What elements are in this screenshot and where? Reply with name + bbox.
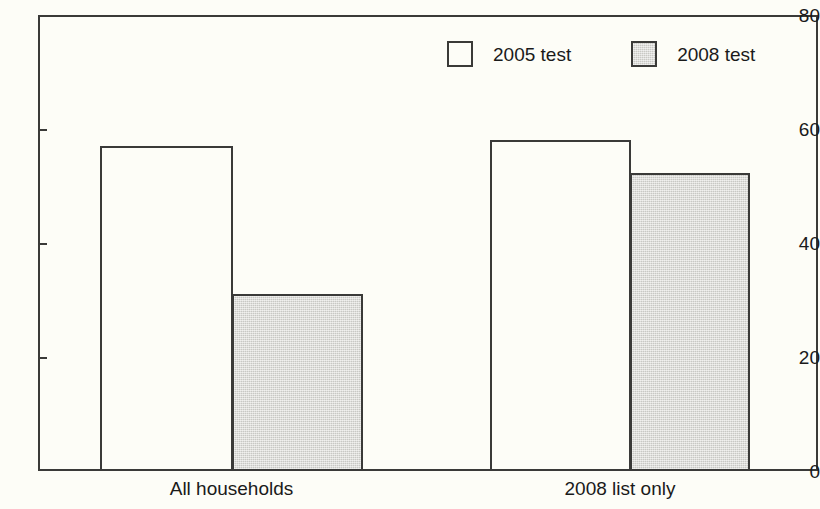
- legend-entry-2008-test: 2008 test: [631, 41, 755, 67]
- legend-entry-2005-test: 2005 test: [447, 41, 571, 67]
- y-axis-label-20: 20: [788, 348, 820, 367]
- y-axis-label-0: 0: [788, 462, 820, 481]
- bar-2008-list-only-2005-test: [490, 140, 631, 471]
- x-axis-category-label-all-households: All households: [100, 478, 363, 499]
- legend-label-2005-test: 2005 test: [493, 45, 571, 64]
- y-axis-label-40: 40: [788, 234, 820, 253]
- y-axis-tick-20: [38, 357, 47, 359]
- x-axis-category-label-2008-list-only: 2008 list only: [490, 478, 750, 499]
- y-axis-tick-60: [38, 129, 47, 131]
- bar-all-households-2005-test: [100, 146, 233, 471]
- legend-swatch-2008-test-icon: [631, 41, 657, 67]
- bar-chart: 80 60 40 20 0 All households 2008 list o…: [0, 0, 820, 509]
- legend: 2005 test 2008 test: [447, 41, 755, 67]
- y-axis-label-80: 80: [788, 6, 820, 25]
- legend-label-2008-test: 2008 test: [677, 45, 755, 64]
- legend-swatch-2005-test-icon: [447, 41, 473, 67]
- bar-2008-list-only-2008-test: [630, 173, 750, 471]
- bar-all-households-2008-test: [232, 294, 363, 471]
- y-axis-tick-40: [38, 243, 47, 245]
- y-axis-label-60: 60: [788, 120, 820, 139]
